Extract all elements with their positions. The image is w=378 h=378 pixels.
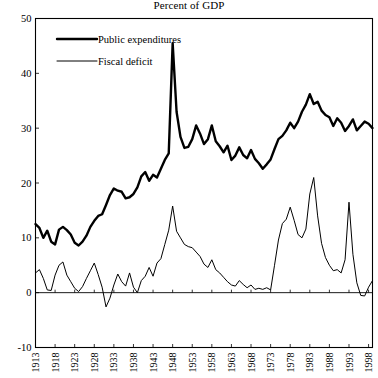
x-axis-tick-label: 1963 bbox=[226, 353, 237, 373]
x-axis-tick-label: 1913 bbox=[30, 353, 41, 373]
plot-frame bbox=[36, 19, 373, 348]
series-line-2 bbox=[36, 178, 373, 307]
x-axis-tick-label: 1938 bbox=[128, 353, 139, 373]
x-axis-tick-label: 1933 bbox=[108, 353, 119, 373]
y-axis-tick-label: 50 bbox=[21, 13, 32, 24]
legend-label-1: Public expenditures bbox=[98, 34, 181, 45]
x-axis-tick-label: 1918 bbox=[50, 353, 61, 373]
y-axis-tick-label: 40 bbox=[21, 68, 32, 79]
y-axis-tick-label: 20 bbox=[21, 178, 32, 189]
legend-label-2: Fiscal deficit bbox=[98, 56, 153, 67]
x-axis-tick-label: 1993 bbox=[344, 353, 355, 373]
x-axis-tick-label: 1978 bbox=[285, 353, 296, 373]
x-axis-tick-label: 1943 bbox=[148, 353, 159, 373]
x-axis-tick-label: 1968 bbox=[246, 353, 257, 373]
x-axis-tick-label: 1928 bbox=[89, 353, 100, 373]
x-axis-tick-label: 1948 bbox=[167, 353, 178, 373]
y-axis-tick-label: 10 bbox=[21, 232, 32, 243]
x-axis-tick-label: 1923 bbox=[69, 353, 80, 373]
x-axis-tick-label: 1973 bbox=[265, 353, 276, 373]
x-axis-tick-label: 1958 bbox=[206, 353, 217, 373]
y-axis-tick-label: 0 bbox=[26, 287, 31, 298]
y-axis-tick-label: 30 bbox=[21, 123, 32, 134]
x-axis-tick-label: 1988 bbox=[324, 353, 335, 373]
x-axis-tick-label: 1983 bbox=[304, 353, 315, 373]
series-line-1 bbox=[36, 43, 373, 245]
chart-container: Percent of GDP 50403020100-1019131918192… bbox=[0, 0, 378, 378]
x-axis-tick-label: 1998 bbox=[363, 353, 374, 373]
chart-plot: 50403020100-1019131918192319281933193819… bbox=[0, 0, 378, 378]
x-axis-tick-label: 1953 bbox=[187, 353, 198, 373]
y-axis-tick-label: -10 bbox=[18, 342, 32, 353]
